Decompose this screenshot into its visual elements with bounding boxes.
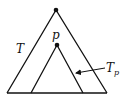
node-p xyxy=(55,43,60,48)
subtree-pointer-arrow xyxy=(76,68,105,73)
root-node xyxy=(54,8,59,13)
tree-label: T xyxy=(16,42,25,56)
subtree-triangle xyxy=(31,45,83,93)
subtree-label: Tp xyxy=(106,61,119,77)
tree-diagram: T p Tp xyxy=(0,0,128,107)
subtree-label-subscript: p xyxy=(114,68,119,77)
node-p-label: p xyxy=(52,28,60,42)
